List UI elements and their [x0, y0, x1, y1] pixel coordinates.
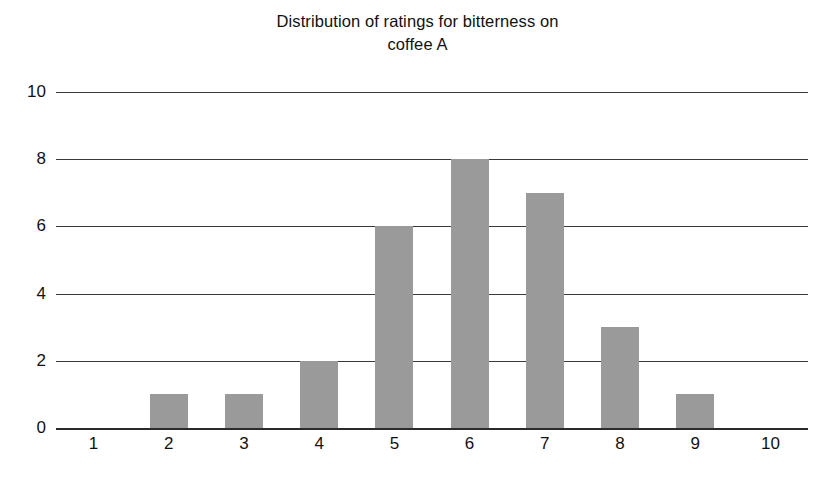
bar — [300, 361, 338, 428]
y-tick-label: 8 — [0, 150, 46, 167]
x-tick-label: 8 — [590, 434, 650, 454]
y-tick-label: 4 — [0, 285, 46, 302]
bar — [150, 394, 188, 428]
gridline — [56, 361, 808, 362]
chart-page: Distribution of ratings for bitterness o… — [0, 0, 835, 483]
x-tick-label: 5 — [364, 434, 424, 454]
y-tick-label: 10 — [0, 83, 46, 100]
axis-baseline — [56, 428, 808, 430]
x-axis-tick-labels: 12345678910 — [56, 434, 808, 462]
x-tick-label: 10 — [740, 434, 800, 454]
bar — [375, 226, 413, 428]
plot-area — [56, 92, 808, 428]
bar — [676, 394, 714, 428]
bar — [526, 193, 564, 428]
y-tick-label: 0 — [0, 419, 46, 436]
x-tick-label: 2 — [139, 434, 199, 454]
gridline — [56, 226, 808, 227]
bar — [225, 394, 263, 428]
gridline — [56, 92, 808, 93]
y-tick-label: 2 — [0, 352, 46, 369]
x-tick-label: 1 — [64, 434, 124, 454]
gridline — [56, 159, 808, 160]
x-tick-label: 4 — [289, 434, 349, 454]
gridline — [56, 294, 808, 295]
bar — [601, 327, 639, 428]
bar — [451, 159, 489, 428]
y-tick-label: 6 — [0, 217, 46, 234]
x-tick-label: 6 — [440, 434, 500, 454]
chart-title: Distribution of ratings for bitterness o… — [0, 10, 835, 56]
x-tick-label: 3 — [214, 434, 274, 454]
x-tick-label: 7 — [515, 434, 575, 454]
y-axis-tick-labels: 0246810 — [0, 92, 46, 428]
x-tick-label: 9 — [665, 434, 725, 454]
